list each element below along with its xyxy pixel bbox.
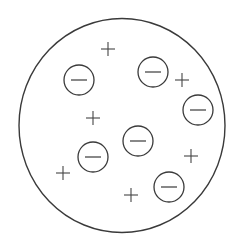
electron-2 (138, 57, 168, 87)
plus-icon (86, 111, 100, 125)
electron-3 (183, 95, 213, 125)
electron-6 (154, 172, 184, 202)
atom-diagram (0, 0, 237, 247)
plus-icon (101, 42, 115, 56)
plus-icon (184, 149, 198, 163)
negative-charges-group (64, 57, 213, 202)
plus-icon (175, 73, 189, 87)
positive-charges-group (56, 42, 198, 202)
electron-4 (123, 126, 153, 156)
diagram-canvas (0, 0, 237, 247)
plus-icon (56, 166, 70, 180)
electron-1 (64, 65, 94, 95)
electron-5 (78, 142, 108, 172)
plus-icon (124, 188, 138, 202)
outer-sphere (19, 19, 225, 233)
